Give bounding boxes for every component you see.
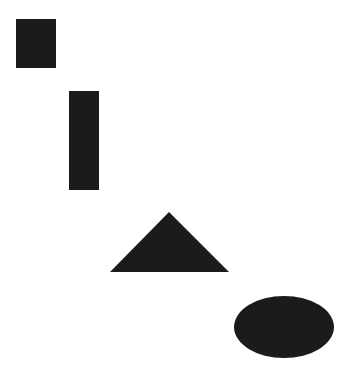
square-shape (16, 19, 56, 68)
shapes-canvas (0, 0, 356, 378)
vertical-rectangle-shape (69, 91, 99, 190)
ellipse-shape (234, 296, 334, 358)
shape-canvas-svg (0, 0, 356, 378)
